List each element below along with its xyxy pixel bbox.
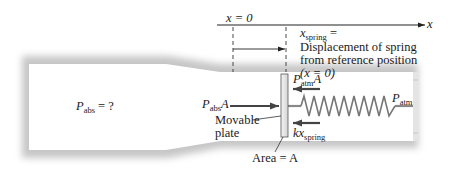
p-atm-force-label: PatmA — [293, 73, 321, 90]
movable-plate — [281, 74, 288, 137]
p-atm-label: Patm — [392, 92, 412, 109]
spring-force-label: kxspring — [293, 127, 325, 144]
diagram-graphics — [0, 0, 451, 175]
origin-label: x = 0 — [226, 12, 252, 25]
p-abs-unknown-label: Pabs = ? — [76, 100, 114, 117]
area-label: Area = A — [252, 152, 298, 165]
pressure-diagram: x x = 0 xspring = Displacement of spring… — [0, 0, 451, 175]
xspring-equals: = — [327, 26, 337, 40]
movable-plate-label-line2: plate — [215, 127, 239, 140]
x-axis-label: x — [427, 18, 433, 31]
pipe-end-cap — [413, 72, 418, 141]
